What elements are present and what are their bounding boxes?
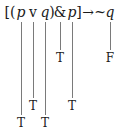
- formula-symbol: ]: [76, 4, 81, 20]
- formula-symbol: p: [17, 4, 26, 20]
- connector-line: [45, 22, 46, 115]
- connector-line: [60, 22, 61, 50]
- formula-symbol: &: [54, 4, 66, 20]
- connector-line: [110, 22, 111, 50]
- formula-symbol: q: [106, 4, 115, 20]
- formula-symbol: q: [41, 4, 50, 20]
- connector-line: [33, 22, 34, 98]
- truth-value-q2: F: [106, 51, 114, 65]
- truth-value-and: T: [56, 51, 64, 65]
- truth-value-p1: T: [17, 116, 25, 130]
- truth-value-p2: T: [68, 99, 76, 113]
- formula-symbol: ~: [94, 4, 106, 20]
- formula-symbol: v: [29, 4, 37, 20]
- formula-symbol: →: [82, 4, 94, 20]
- connector-line: [21, 22, 22, 115]
- formula-symbol: p: [68, 4, 77, 20]
- truth-value-q1: T: [41, 116, 49, 130]
- connector-line: [72, 22, 73, 98]
- truth-value-or: T: [29, 99, 37, 113]
- formula-symbol: [(: [5, 4, 16, 20]
